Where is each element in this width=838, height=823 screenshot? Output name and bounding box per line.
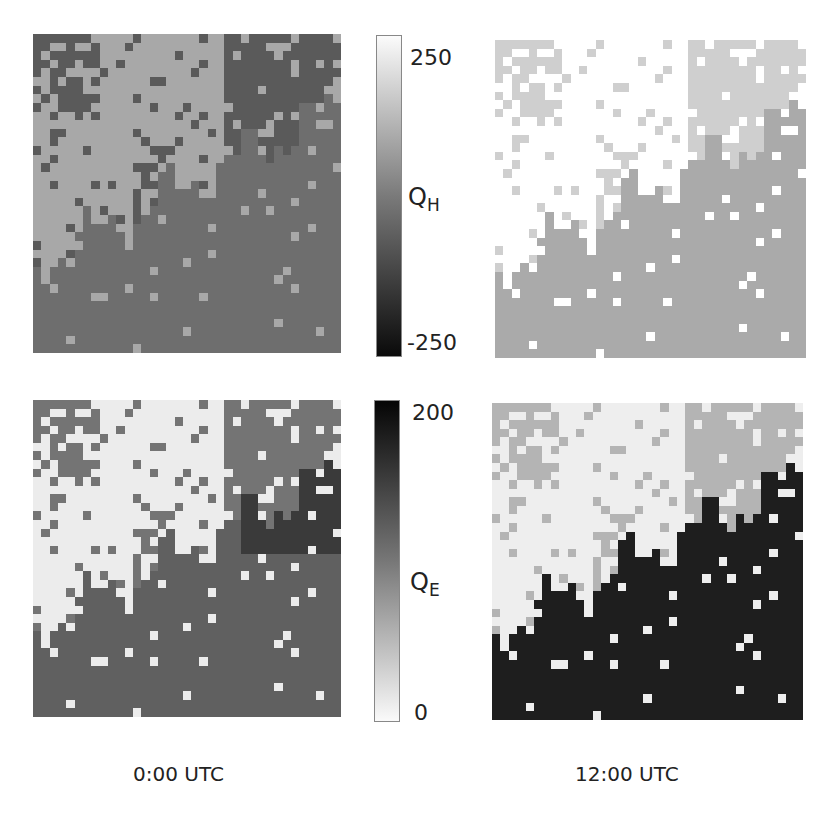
qe-0utc-map (33, 400, 341, 717)
qe-colorbar (374, 400, 400, 722)
qe-label-sub: E (429, 580, 440, 600)
qe-label: QE (410, 568, 440, 600)
qh-label-text: Q (408, 183, 427, 211)
qe-label-text: Q (410, 568, 429, 596)
time-label-0utc: 0:00 UTC (133, 762, 224, 786)
qh-colorbar (376, 35, 402, 357)
qh-12utc-map (495, 40, 806, 358)
qe-min-tick: 0 (414, 700, 428, 725)
qh-min-tick: -250 (407, 330, 457, 355)
time-label-12utc: 12:00 UTC (575, 762, 679, 786)
qh-label-sub: H (427, 195, 440, 215)
qh-0utc-map (33, 34, 341, 353)
qe-12utc-map (492, 403, 803, 720)
qh-label: QH (408, 183, 440, 215)
qe-max-tick: 200 (412, 400, 454, 425)
qh-max-tick: 250 (410, 45, 452, 70)
